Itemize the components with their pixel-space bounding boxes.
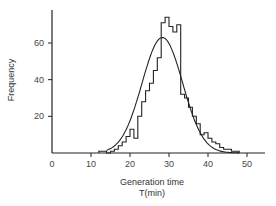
x-tick-label: 40: [203, 159, 213, 169]
histogram-bars: [99, 17, 239, 153]
normal-fit-curve: [107, 38, 240, 153]
y-tick-label: 20: [34, 111, 44, 121]
x-ticks: 01020304050: [49, 153, 252, 169]
y-ticks: 204060: [34, 38, 52, 121]
x-tick-label: 30: [164, 159, 174, 169]
x-tick-label: 20: [125, 159, 135, 169]
x-axis-units: T(min): [139, 188, 165, 198]
plot-area: [99, 17, 239, 153]
x-tick-label: 50: [242, 159, 252, 169]
y-tick-label: 40: [34, 75, 44, 85]
x-axis-label: Generation time: [120, 177, 184, 187]
histogram-chart: 204060 01020304050 Frequency Generation …: [0, 0, 276, 206]
x-tick-label: 10: [86, 159, 96, 169]
x-tick-label: 0: [49, 159, 54, 169]
y-axis-label: Frequency: [6, 58, 16, 101]
y-tick-label: 60: [34, 38, 44, 48]
